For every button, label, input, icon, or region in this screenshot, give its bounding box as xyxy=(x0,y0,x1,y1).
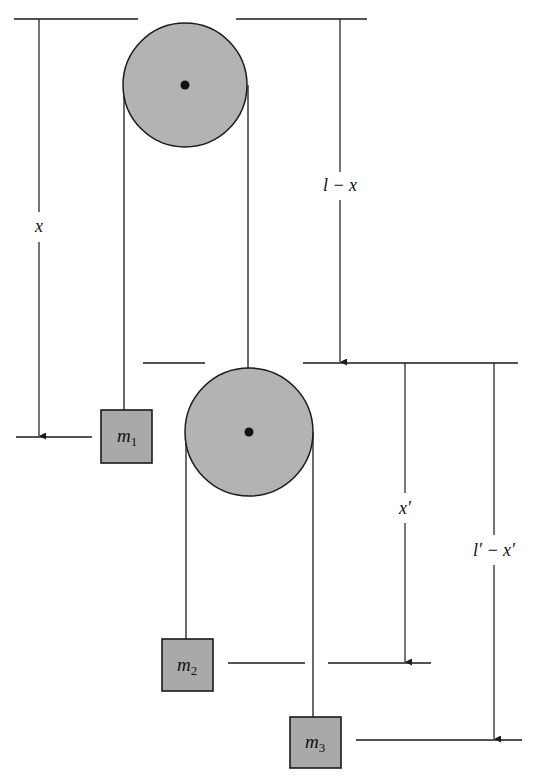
mass-m3: m3 xyxy=(290,717,341,768)
upper-pulley-axle-icon xyxy=(181,81,190,90)
double-atwood-diagram: m1 m2 m3 x l − x x′ l′ − x′ xyxy=(0,0,542,782)
label-x: x xyxy=(34,216,43,236)
lower-pulley-axle-icon xyxy=(245,428,254,437)
label-x-prime: x′ xyxy=(398,498,412,518)
lower-pulley xyxy=(185,368,313,496)
mass-m1: m1 xyxy=(101,410,152,463)
mass-m2: m2 xyxy=(162,639,213,691)
label-lp-minus-xp: l′ − x′ xyxy=(473,540,516,560)
label-l-minus-x: l − x xyxy=(323,175,357,195)
upper-pulley xyxy=(123,23,247,147)
